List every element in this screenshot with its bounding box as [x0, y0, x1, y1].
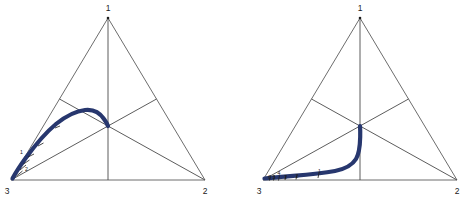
curve-tick-label-1-right: 1 [318, 168, 321, 174]
ternary-panel-left: 1 2 1 2 3 [0, 0, 233, 205]
curve-tick-label-1-left: 1 [20, 149, 23, 155]
median-from-vertex-2-right [312, 99, 458, 180]
curve-tick-label-2-right: 2 [296, 173, 299, 179]
vertex-dot-top-left-panel [107, 17, 110, 20]
ternary-plot-left: 1 2 1 2 3 [0, 0, 233, 205]
ternary-panel-right: 1 2 3 4 5 6 1 2 3 [233, 0, 466, 205]
vertex-dot-top-right-panel [359, 17, 362, 20]
vertex-label-3-right: 3 [257, 186, 262, 196]
ternary-diagram-figure: 1 2 1 2 3 [0, 0, 466, 205]
vertex-label-2-left: 2 [203, 186, 208, 196]
vertex-label-1-right: 1 [358, 3, 363, 13]
curve-tick-label-3-right: 3 [284, 174, 287, 180]
curve-tick-label-4-right: 4 [278, 170, 281, 176]
ternary-plot-right: 1 2 3 4 5 6 1 2 3 [233, 0, 466, 205]
curve-tick-label-6-right: 6 [268, 174, 271, 180]
vertex-label-2-right: 2 [455, 186, 460, 196]
median-from-vertex-3-right [263, 99, 409, 180]
vertex-label-1-left: 1 [106, 3, 111, 13]
vertex-label-3-left: 3 [5, 186, 10, 196]
curve-tick-label-5-right: 5 [273, 174, 276, 180]
curve-tick-label-2-left: 2 [25, 166, 28, 172]
